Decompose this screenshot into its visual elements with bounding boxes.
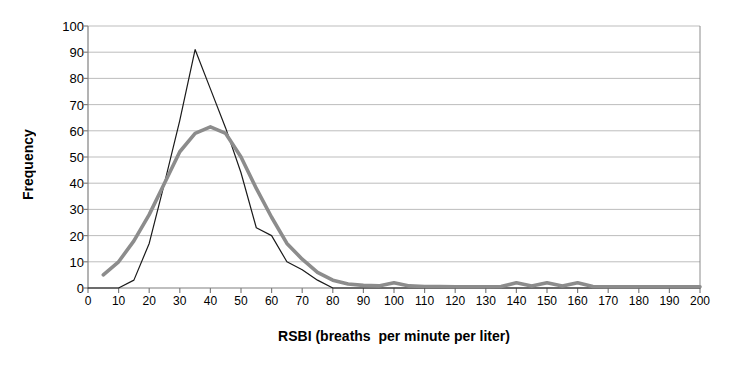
x-tick-label: 10 xyxy=(112,295,125,307)
x-tick-label: 100 xyxy=(384,295,404,307)
x-tick-label: 140 xyxy=(506,295,526,307)
x-tick-label: 110 xyxy=(415,295,434,307)
x-tick-label: 30 xyxy=(173,295,186,307)
x-tick-label: 0 xyxy=(85,295,92,307)
x-tick-label: 80 xyxy=(326,295,339,307)
x-tick-label: 120 xyxy=(445,295,465,307)
x-tick-label: 130 xyxy=(476,295,496,307)
x-tick-label: 40 xyxy=(204,295,217,307)
x-tick-label: 180 xyxy=(629,295,649,307)
x-tick-label: 190 xyxy=(659,295,679,307)
chart-figure: Frequency 0102030405060708090100 0102030… xyxy=(0,0,739,366)
x-tick-label: 170 xyxy=(598,295,618,307)
x-tick-label: 150 xyxy=(537,295,557,307)
x-tick-label: 160 xyxy=(568,295,588,307)
x-tick-label: 20 xyxy=(143,295,156,307)
x-tick-label: 200 xyxy=(690,295,710,307)
x-tick-label: 90 xyxy=(357,295,370,307)
x-tick-label: 60 xyxy=(265,295,278,307)
x-tick-label: 70 xyxy=(296,295,309,307)
x-axis-tick-labels: 0102030405060708090100110120130140150160… xyxy=(0,0,739,366)
x-axis-title: RSBI (breaths per minute per liter) xyxy=(88,328,700,344)
x-tick-label: 50 xyxy=(234,295,247,307)
